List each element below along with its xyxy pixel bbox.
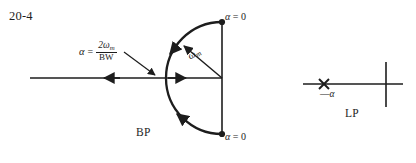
figure-number: 20-4 — [9, 10, 33, 23]
lowpass-caption: LP — [345, 108, 359, 120]
minus-alpha-symbol: α — [330, 89, 335, 99]
root-locus-figure — [0, 0, 416, 163]
alpha-formula-leader — [124, 52, 155, 75]
alpha-zero-label-bottom: α = 0 — [225, 132, 246, 142]
alpha-bandwidth-formula: α = 2ωm BW — [79, 41, 117, 63]
alpha-zero-top-value: = 0 — [230, 11, 246, 22]
numerator-text: 2ω — [98, 40, 109, 50]
minus-sign: — — [320, 89, 330, 99]
equals-sign: = — [88, 47, 94, 57]
minus-alpha-pole-label: —α — [320, 90, 335, 100]
fraction-denominator: BW — [97, 53, 116, 63]
alpha-zero-label-top: α = 0 — [225, 12, 246, 22]
alpha-zero-bottom-value: = 0 — [230, 131, 246, 142]
alpha-symbol: α — [79, 47, 85, 58]
figure-canvas: 20-4 α = 2ωm BW ωm α = 0 α = 0 BP —α LP — [0, 0, 416, 163]
formula-fraction: 2ωm BW — [96, 41, 116, 63]
fraction-numerator: 2ωm — [96, 41, 116, 52]
bandpass-caption: BP — [136, 127, 151, 139]
numerator-subscript: m — [110, 44, 115, 51]
